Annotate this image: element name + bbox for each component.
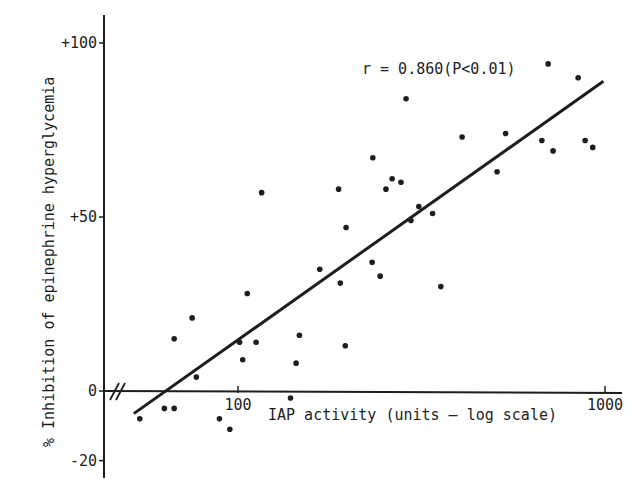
regression-line xyxy=(134,81,604,413)
data-point xyxy=(217,416,223,422)
data-point xyxy=(389,176,395,182)
data-point xyxy=(370,155,376,161)
data-point xyxy=(244,291,250,297)
scatter-chart: +100+500-20 1001000 r = 0.860(P<0.01) IA… xyxy=(0,0,642,496)
data-point xyxy=(194,374,200,380)
data-point xyxy=(377,273,383,279)
data-point xyxy=(288,395,294,401)
data-point xyxy=(494,169,500,175)
data-point xyxy=(336,186,342,192)
data-point xyxy=(189,315,195,321)
y-axis-title: % Inhibition of epinephrine hyperglycemi… xyxy=(40,77,58,447)
x-axis-title: IAP activity (units — log scale) xyxy=(268,406,557,424)
data-point xyxy=(317,266,323,272)
y-tick-label: 0 xyxy=(88,382,97,400)
data-point xyxy=(253,339,259,345)
y-tick-label: -20 xyxy=(70,452,97,470)
data-point xyxy=(545,61,551,67)
data-point xyxy=(137,416,143,422)
data-point xyxy=(343,225,349,231)
data-point xyxy=(459,134,465,140)
data-point xyxy=(338,280,344,286)
data-point xyxy=(430,211,436,217)
data-point xyxy=(227,426,233,432)
data-point xyxy=(438,284,444,290)
data-point xyxy=(503,131,509,137)
x-tick-label: 100 xyxy=(224,396,251,414)
data-point xyxy=(162,406,168,412)
data-point xyxy=(408,218,414,224)
data-point xyxy=(293,360,299,366)
data-point xyxy=(416,204,422,210)
y-tick-label: +50 xyxy=(70,208,97,226)
data-point xyxy=(590,145,596,151)
data-point xyxy=(383,186,389,192)
data-point xyxy=(398,179,404,185)
data-point xyxy=(171,406,177,412)
y-tick-label: +100 xyxy=(61,34,97,52)
data-point xyxy=(237,339,243,345)
data-point xyxy=(240,357,246,363)
x-tick-label: 1000 xyxy=(587,396,623,414)
data-points xyxy=(137,61,596,432)
data-point xyxy=(550,148,556,154)
y-ticks: +100+500-20 xyxy=(61,34,104,470)
data-point xyxy=(342,343,348,349)
correlation-annotation: r = 0.860(P<0.01) xyxy=(362,60,516,78)
data-point xyxy=(403,96,409,102)
x-axis xyxy=(104,391,622,393)
data-point xyxy=(171,336,177,342)
data-point xyxy=(582,138,588,144)
data-point xyxy=(369,259,375,265)
data-point xyxy=(539,138,545,144)
data-point xyxy=(575,75,581,81)
data-point xyxy=(259,190,265,196)
data-point xyxy=(297,333,303,339)
